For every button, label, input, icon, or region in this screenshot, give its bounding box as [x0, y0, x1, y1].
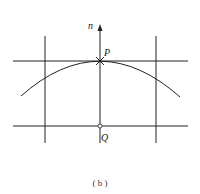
point-q-marker [98, 124, 102, 128]
figure-caption: ( b ) [93, 178, 108, 188]
diagram: n P Q ( b ) [0, 0, 200, 194]
point-q-label: Q [101, 132, 109, 143]
arrow-up-icon [98, 24, 103, 31]
normal-label: n [88, 20, 93, 31]
point-p-label: P [103, 47, 110, 58]
